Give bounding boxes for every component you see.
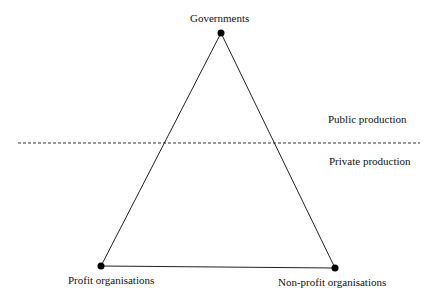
label-profit-organisations: Profit organisations	[68, 274, 154, 286]
label-nonprofit-organisations: Non-profit organisations	[278, 276, 386, 288]
label-private-production: Private production	[329, 155, 411, 167]
edge-gov-profit	[101, 33, 221, 266]
node-governments	[218, 30, 225, 37]
edge-gov-nonprofit	[221, 33, 335, 268]
label-governments: Governments	[190, 12, 249, 24]
node-profit	[98, 263, 105, 270]
triangle-diagram	[0, 0, 435, 300]
label-public-production: Public production	[328, 113, 407, 125]
node-nonprofit	[332, 265, 339, 272]
edge-profit-nonprofit	[101, 266, 335, 268]
